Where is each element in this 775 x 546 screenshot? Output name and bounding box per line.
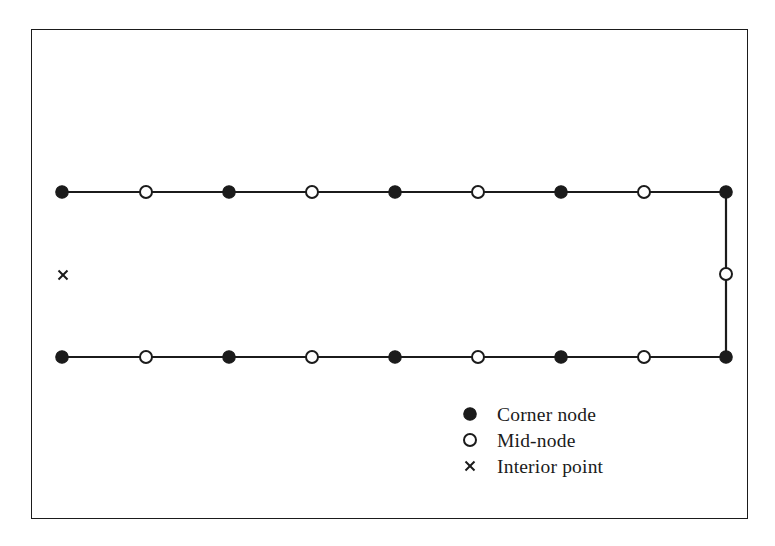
node-mid-node-6 (306, 351, 318, 363)
node-corner-node-4 (555, 186, 567, 198)
node-corner-node-1 (56, 186, 68, 198)
legend-marker-corner-node (464, 408, 476, 420)
legend-item-corner-node: Corner node (464, 404, 596, 425)
legend-item-mid-node: Mid-node (464, 430, 576, 451)
mesh-nodes-group (56, 186, 732, 363)
node-corner-node-8 (389, 351, 401, 363)
legend-label-corner-node: Corner node (497, 404, 596, 425)
node-corner-node-9 (555, 351, 567, 363)
node-mid-node-9 (720, 268, 732, 280)
node-mid-node-7 (472, 351, 484, 363)
node-mid-node-5 (140, 351, 152, 363)
node-corner-node-7 (223, 351, 235, 363)
mesh-diagram: Corner nodeMid-nodeInterior point (0, 0, 775, 546)
node-corner-node-6 (56, 351, 68, 363)
legend-marker-mid-node (464, 434, 476, 446)
legend-item-interior-point: Interior point (466, 456, 604, 477)
node-corner-node-10 (720, 351, 732, 363)
node-corner-node-3 (389, 186, 401, 198)
legend-label-interior-point: Interior point (497, 456, 604, 477)
node-mid-node-3 (472, 186, 484, 198)
node-mid-node-4 (638, 186, 650, 198)
legend: Corner nodeMid-nodeInterior point (464, 404, 604, 477)
node-corner-node-2 (223, 186, 235, 198)
node-corner-node-5 (720, 186, 732, 198)
legend-label-mid-node: Mid-node (497, 430, 576, 451)
node-interior-point-1 (59, 271, 68, 280)
figure-root: Corner nodeMid-nodeInterior point (0, 0, 775, 546)
node-mid-node-1 (140, 186, 152, 198)
mesh-edges-group (62, 192, 726, 357)
node-mid-node-8 (638, 351, 650, 363)
legend-marker-interior-point (466, 462, 475, 471)
node-mid-node-2 (306, 186, 318, 198)
